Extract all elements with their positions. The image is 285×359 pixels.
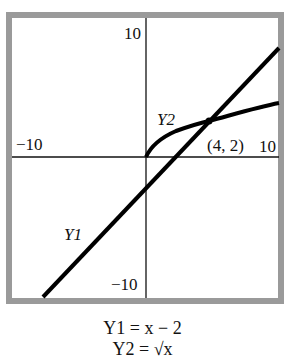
y-max-tick-label: 10 bbox=[124, 25, 141, 42]
caption-y2-equation: Y2 = √x bbox=[0, 340, 285, 358]
x-min-tick-label: −10 bbox=[16, 136, 43, 153]
series-label-y2: Y2 bbox=[157, 111, 175, 128]
series-y1-line bbox=[43, 48, 279, 297]
caption-y1-equation: Y1 = x − 2 bbox=[0, 319, 285, 337]
intersection-label: (4, 2) bbox=[207, 137, 244, 154]
series-label-y1: Y1 bbox=[64, 226, 82, 243]
x-max-tick-label: 10 bbox=[259, 138, 276, 155]
y-min-tick-label: −10 bbox=[111, 276, 138, 293]
intersection-point bbox=[206, 118, 213, 125]
